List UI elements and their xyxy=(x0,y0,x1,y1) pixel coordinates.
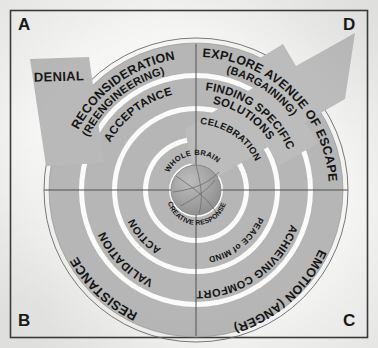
corner-label-d: D xyxy=(343,16,355,33)
diagram-canvas: RECONSIDERATION (REENGINEERING) ACCEPTAN… xyxy=(0,0,378,348)
corner-label-c: C xyxy=(343,312,355,329)
denial-wedge-label: DENIAL xyxy=(27,68,91,85)
diagram-page: RECONSIDERATION (REENGINEERING) ACCEPTAN… xyxy=(0,0,378,348)
center-sphere xyxy=(171,165,221,215)
corner-label-a: A xyxy=(18,16,30,33)
corner-label-b: B xyxy=(18,312,30,329)
